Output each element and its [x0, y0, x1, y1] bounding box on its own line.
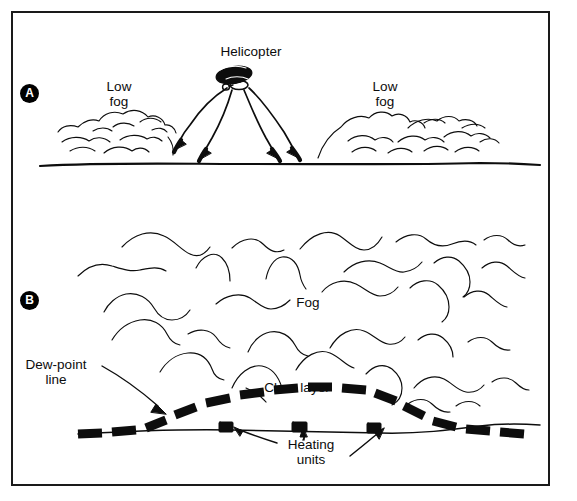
label-helicopter: Helicopter: [196, 44, 306, 59]
label-dew-point-line: Dew-point line: [8, 357, 104, 387]
label-fog: Fog: [283, 295, 333, 310]
label-low-fog-left: Low fog: [84, 79, 154, 109]
panel-badge-a: A: [20, 84, 39, 103]
figure-container: A B Helicopter Low fog Low fog Fog Dew-p…: [0, 0, 577, 501]
label-heating-units: Heating units: [274, 437, 348, 467]
label-low-fog-right: Low fog: [350, 79, 420, 109]
panel-badge-b: B: [20, 291, 39, 310]
label-clear-layer: Clear layer: [249, 380, 345, 395]
